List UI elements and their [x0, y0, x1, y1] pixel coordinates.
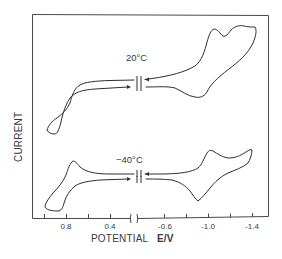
x-axis-title: POTENTIAL	[91, 233, 149, 244]
plot-frame	[33, 15, 269, 224]
x-axis-line-right	[137, 217, 269, 219]
curve-break-marks-minus40c	[137, 170, 141, 183]
tick-label: 0.8	[60, 222, 72, 231]
series-minus40c	[45, 150, 252, 211]
tick-label: -1.0	[201, 222, 215, 231]
curve-break-marks-20c	[137, 76, 141, 91]
tick-label: 0.4	[104, 222, 116, 231]
x-axis-unit: E/V	[157, 233, 174, 244]
y-axis-title: CURRENT	[13, 112, 24, 162]
tick-label: -0.6	[158, 222, 172, 231]
cyclic-voltammogram-figure: 0.8 0.4 -0.6 -1.0 -1.4 POTENTIAL E/V CUR…	[0, 0, 282, 259]
curve-20c-upper-right	[145, 26, 256, 98]
x-axis-tick-labels: 0.8 0.4 -0.6 -1.0 -1.4	[60, 222, 259, 231]
tick-label: -1.4	[245, 222, 259, 231]
arrow-left-icon	[145, 78, 149, 82]
annotation-minus40c: −40°C	[116, 154, 143, 165]
annotation-20c: 20°C	[126, 52, 147, 63]
arrow-left-icon	[127, 85, 131, 89]
arrow-left-icon	[127, 177, 131, 181]
curve-minus40c-upper-right	[145, 150, 252, 201]
frame-top	[33, 15, 269, 16]
series-20c	[47, 26, 256, 134]
arrow-left-icon	[145, 172, 149, 176]
curve-minus40c-upper-left	[45, 161, 134, 211]
curve-20c-upper-left	[47, 80, 134, 134]
